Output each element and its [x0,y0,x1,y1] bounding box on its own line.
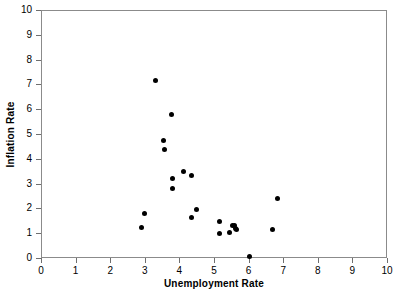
data-point [275,196,280,201]
y-tick-label: 6 [8,104,32,114]
y-tick-label: 0 [8,253,32,263]
x-axis-title: Unemployment Rate [41,278,387,289]
x-tick-mark [318,258,319,263]
data-point [189,215,194,220]
data-point [170,176,175,181]
x-tick-label: 3 [133,265,157,276]
x-tick-label: 5 [202,265,226,276]
x-tick-label: 2 [98,265,122,276]
data-point [181,169,186,174]
x-tick-mark [41,258,42,263]
y-tick-label: 7 [8,79,32,89]
x-tick-mark [283,258,284,263]
x-tick-mark [76,258,77,263]
x-tick-mark [214,258,215,263]
data-point [169,112,174,117]
data-point [142,211,147,216]
x-tick-mark [110,258,111,263]
y-tick-label: 1 [8,228,32,238]
data-point [153,78,158,83]
x-tick-label: 1 [64,265,88,276]
x-tick-label: 9 [340,265,364,276]
data-point [189,173,194,178]
x-tick-label: 0 [29,265,53,276]
data-point [247,254,252,259]
x-tick-label: 7 [271,265,295,276]
plot-data-area [41,10,387,258]
scatter-plot-figure: Inflation Rate 012345678910 012345678910… [0,0,406,299]
y-tick-label: 3 [8,179,32,189]
data-point [270,227,275,232]
x-tick-mark [179,258,180,263]
x-tick-label: 6 [237,265,261,276]
data-point [217,231,222,236]
y-tick-label: 4 [8,154,32,164]
data-point [139,225,144,230]
data-point [194,207,199,212]
x-tick-label: 8 [306,265,330,276]
data-point [234,227,239,232]
x-tick-label: 4 [167,265,191,276]
y-tick-label: 2 [8,203,32,213]
y-tick-label: 9 [8,30,32,40]
y-tick-label: 10 [8,5,32,15]
x-tick-mark [387,258,388,263]
data-point [227,230,232,235]
data-point [161,138,166,143]
data-point [217,219,222,224]
x-tick-mark [145,258,146,263]
y-tick-label: 8 [8,55,32,65]
x-tick-label: 10 [375,265,399,276]
x-tick-mark [352,258,353,263]
data-point [170,186,175,191]
y-tick-label: 5 [8,129,32,139]
data-point [162,147,167,152]
